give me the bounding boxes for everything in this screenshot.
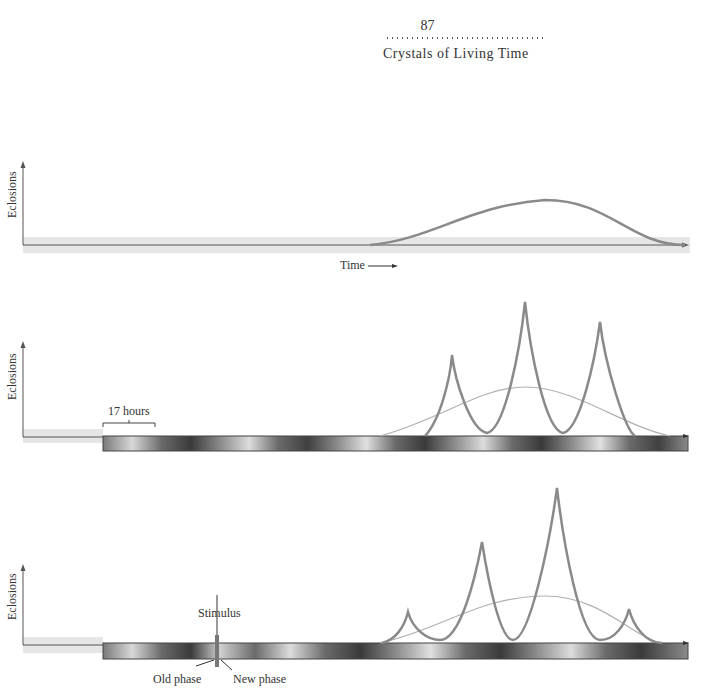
stimulus-label: Stimulus <box>198 606 241 621</box>
panel-1-chart <box>21 161 691 268</box>
old-phase-label: Old phase <box>153 672 201 687</box>
y-axis-label-panel-1: Eclosions <box>5 171 20 218</box>
y-axis-label-panel-2: Eclosions <box>5 353 20 400</box>
figure <box>0 0 715 693</box>
bracket-label-17-hours: 17 hours <box>108 404 150 419</box>
y-axis-label-panel-3: Eclosions <box>5 573 20 620</box>
new-phase-label: New phase <box>233 672 286 687</box>
x-axis-label-panel-1: Time <box>340 258 365 273</box>
panel-3-chart <box>21 488 690 670</box>
panel-2-chart <box>21 302 690 451</box>
